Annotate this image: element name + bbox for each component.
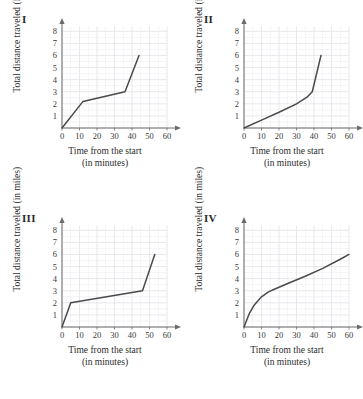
plot-area-1: 010203040506012345678 xyxy=(36,16,182,146)
svg-text:60: 60 xyxy=(163,131,172,141)
y-axis-label-4: Total distance traveled (in miles) xyxy=(195,180,205,292)
svg-text:1: 1 xyxy=(235,111,239,121)
svg-text:4: 4 xyxy=(53,274,58,284)
svg-text:0: 0 xyxy=(242,131,246,141)
y-axis-label-3: Total distance traveled (in miles) xyxy=(13,180,23,292)
svg-text:7: 7 xyxy=(235,38,239,48)
svg-text:1: 1 xyxy=(53,111,57,121)
svg-text:7: 7 xyxy=(53,237,57,247)
svg-text:4: 4 xyxy=(235,274,240,284)
chart-panel-4: IV Total distance traveled (in miles) 01… xyxy=(182,199,363,399)
svg-text:2: 2 xyxy=(53,298,57,308)
svg-text:8: 8 xyxy=(53,26,57,36)
svg-text:7: 7 xyxy=(53,38,57,48)
svg-text:2: 2 xyxy=(235,298,239,308)
svg-text:6: 6 xyxy=(53,50,57,60)
svg-text:0: 0 xyxy=(242,330,246,340)
svg-text:5: 5 xyxy=(235,63,239,73)
svg-text:10: 10 xyxy=(257,330,266,340)
y-axis-label-2: Total distance traveled (in miles) xyxy=(195,0,205,93)
x-axis-label-2: Time from the start (in minutes) xyxy=(212,146,362,170)
svg-text:6: 6 xyxy=(235,249,239,259)
chart-panel-1: I Total distance traveled (in miles) 010… xyxy=(0,0,182,199)
svg-text:50: 50 xyxy=(145,330,154,340)
svg-text:6: 6 xyxy=(53,249,57,259)
svg-text:30: 30 xyxy=(110,131,119,141)
svg-text:10: 10 xyxy=(75,131,84,141)
svg-text:2: 2 xyxy=(53,99,57,109)
svg-text:60: 60 xyxy=(163,330,172,340)
svg-text:20: 20 xyxy=(275,330,284,340)
gridlines xyxy=(62,26,167,128)
gridlines xyxy=(244,225,349,327)
svg-text:4: 4 xyxy=(235,75,240,85)
svg-text:60: 60 xyxy=(345,330,354,340)
x-axis-label-1: Time from the start (in minutes) xyxy=(30,146,180,170)
svg-text:20: 20 xyxy=(275,131,284,141)
svg-text:0: 0 xyxy=(60,131,64,141)
svg-text:50: 50 xyxy=(327,330,336,340)
y-axis-arrow-icon xyxy=(59,18,64,24)
svg-text:8: 8 xyxy=(53,225,57,235)
x-axis-label-line2: (in minutes) xyxy=(30,158,180,170)
panel-label-2: II xyxy=(204,14,213,25)
svg-text:40: 40 xyxy=(128,330,137,340)
svg-text:7: 7 xyxy=(235,237,239,247)
chart-grid: I Total distance traveled (in miles) 010… xyxy=(0,0,363,399)
x-axis-label-line1: Time from the start xyxy=(250,146,323,156)
x-axis-label-line1: Time from the start xyxy=(68,146,141,156)
x-axis-label-line1: Time from the start xyxy=(250,345,323,355)
svg-text:50: 50 xyxy=(327,131,336,141)
x-axis-label-3: Time from the start (in minutes) xyxy=(30,345,180,369)
y-axis-label-1: Total distance traveled (in miles) xyxy=(13,0,23,93)
svg-text:40: 40 xyxy=(310,131,319,141)
y-axis-arrow-icon xyxy=(59,217,64,223)
svg-text:8: 8 xyxy=(235,225,239,235)
svg-text:30: 30 xyxy=(292,330,301,340)
svg-text:6: 6 xyxy=(235,50,239,60)
svg-text:8: 8 xyxy=(235,26,239,36)
axes xyxy=(59,18,181,131)
axes xyxy=(59,217,181,330)
x-axis-arrow-icon xyxy=(357,125,363,130)
svg-text:40: 40 xyxy=(310,330,319,340)
svg-text:1: 1 xyxy=(235,310,239,320)
chart-panel-3: III Total distance traveled (in miles) 0… xyxy=(0,199,182,399)
x-axis-label-line2: (in minutes) xyxy=(212,357,362,369)
svg-text:4: 4 xyxy=(53,75,58,85)
svg-text:30: 30 xyxy=(110,330,119,340)
gridlines xyxy=(244,26,349,128)
svg-text:40: 40 xyxy=(128,131,137,141)
plot-area-2: 010203040506012345678 xyxy=(218,16,363,146)
x-axis-label-line1: Time from the start xyxy=(68,345,141,355)
x-axis-label-line2: (in minutes) xyxy=(212,158,362,170)
svg-text:1: 1 xyxy=(53,310,57,320)
chart-panel-2: II Total distance traveled (in miles) 01… xyxy=(182,0,363,199)
svg-text:3: 3 xyxy=(53,87,57,97)
svg-text:3: 3 xyxy=(235,286,239,296)
svg-text:5: 5 xyxy=(53,63,57,73)
plot-area-3: 010203040506012345678 xyxy=(36,215,182,345)
gridlines xyxy=(62,225,167,327)
y-axis-arrow-icon xyxy=(241,18,246,24)
svg-text:2: 2 xyxy=(235,99,239,109)
svg-text:50: 50 xyxy=(145,131,154,141)
panel-label-3: III xyxy=(22,213,36,224)
axes xyxy=(241,217,363,330)
panel-label-4: IV xyxy=(204,213,217,224)
x-axis-arrow-icon xyxy=(175,324,181,329)
svg-text:5: 5 xyxy=(235,262,239,272)
svg-text:0: 0 xyxy=(60,330,64,340)
svg-text:10: 10 xyxy=(257,131,266,141)
svg-text:60: 60 xyxy=(345,131,354,141)
svg-text:20: 20 xyxy=(93,330,102,340)
svg-text:3: 3 xyxy=(235,87,239,97)
x-axis-label-4: Time from the start (in minutes) xyxy=(212,345,362,369)
svg-text:10: 10 xyxy=(75,330,84,340)
svg-text:3: 3 xyxy=(53,286,57,296)
axes xyxy=(241,18,363,131)
plot-area-4: 010203040506012345678 xyxy=(218,215,363,345)
x-axis-arrow-icon xyxy=(175,125,181,130)
y-axis-arrow-icon xyxy=(241,217,246,223)
x-axis-label-line2: (in minutes) xyxy=(30,357,180,369)
